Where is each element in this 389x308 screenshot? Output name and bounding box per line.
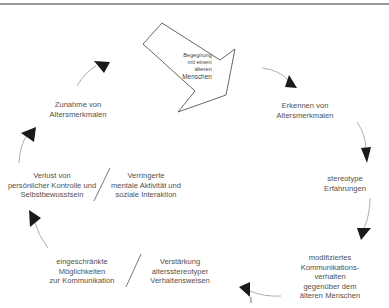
arrowhead-2-icon: [361, 147, 371, 163]
node-line: verhalten: [300, 272, 360, 282]
node-line: zur Kommunikation: [50, 276, 115, 286]
start-label: Begegnung mit einem älteren Menschen: [182, 52, 212, 80]
node-line: Erfahrungen: [324, 184, 366, 194]
arrowhead-3-icon: [357, 228, 371, 240]
node-line: gegenüber dem: [300, 282, 360, 292]
start-line: Menschen: [182, 73, 212, 80]
node-line: Kommunikations-: [300, 263, 360, 273]
node-modifiziert: modifiziertes Kommunikations- verhalten …: [300, 253, 360, 301]
arc-2: [357, 122, 366, 150]
node-line: Erkennen von: [277, 101, 334, 111]
arc-1: [262, 68, 290, 82]
separator-slash-2: [126, 254, 141, 287]
node-line: eingeschränkte: [50, 257, 115, 267]
node-stereotype: stereotype Erfahrungen: [324, 174, 366, 193]
node-line: Verstärkung: [150, 257, 210, 267]
node-line: Verhaltensweisen: [150, 276, 210, 286]
node-verstaerkung: Verstärkung altersstereotyper Verhaltens…: [150, 257, 210, 286]
arrowhead-4-icon: [239, 282, 250, 297]
start-line: mit einem: [182, 59, 212, 66]
node-zunahme: Zunahme von Altersmerkmalen: [50, 100, 107, 119]
arrowhead-7-icon: [94, 61, 110, 73]
node-line: mentale Aktivität und: [111, 181, 181, 191]
node-eingeschraenkt: eingeschränkte Möglichkeiten zur Kommuni…: [50, 257, 115, 286]
arc-4: [250, 291, 281, 296]
node-line: Verringerte: [111, 171, 181, 181]
separator-slash-1: [94, 168, 110, 201]
node-line: stereotype: [324, 174, 366, 184]
arc-6: [19, 135, 27, 163]
node-line: Zunahme von: [50, 100, 107, 110]
arrowhead-1-icon: [285, 75, 297, 88]
node-line: altersstereotyper: [150, 267, 210, 277]
node-line: Verlust von: [8, 171, 96, 181]
start-line: älteren: [182, 66, 212, 73]
start-line: Begegnung: [182, 52, 212, 59]
node-line: Altersmerkmalen: [50, 110, 107, 120]
node-line: soziale Interaktion: [111, 190, 181, 200]
node-line: Selbstbewusstsein: [8, 190, 96, 200]
node-line: älteren Menschen: [300, 291, 360, 301]
arc-3: [364, 198, 370, 228]
arc-7: [77, 66, 96, 86]
node-verlust: Verlust von persönlicher Kontrolle und S…: [8, 171, 96, 200]
node-line: Altersmerkmalen: [277, 111, 334, 121]
node-erkennen: Erkennen von Altersmerkmalen: [277, 101, 334, 120]
node-verringert: Verringerte mentale Aktivität und sozial…: [111, 171, 181, 200]
node-line: persönlicher Kontrolle und: [8, 181, 96, 191]
arrowhead-6-icon: [21, 127, 36, 142]
arc-5: [34, 220, 48, 248]
node-line: Möglichkeiten: [50, 267, 115, 277]
node-line: modifiziertes: [300, 253, 360, 263]
